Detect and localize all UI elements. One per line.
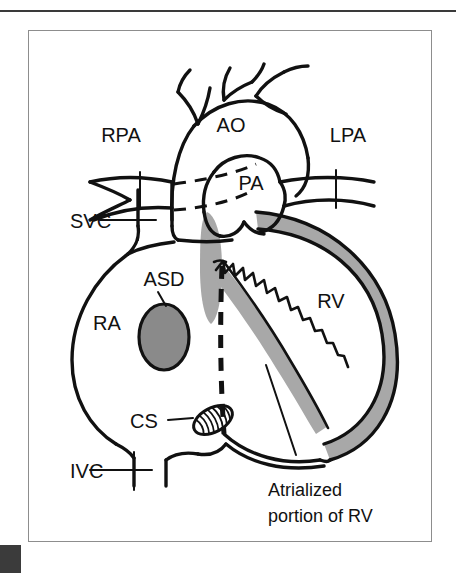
label-ra: RA [93,312,121,334]
label-rv: RV [317,290,345,312]
figure-root: RPA AO LPA PA SVC ASD RA CS IVC RV Atria… [0,0,456,574]
cs-leader-line [168,418,193,420]
true-tricuspid-annulus-dashed-line [221,266,224,434]
label-cs: CS [130,410,158,432]
label-pa: PA [238,172,264,194]
top-horizontal-rule [0,10,456,12]
label-lpa: LPA [330,124,367,146]
label-atrialized-line2: portion of RV [268,506,373,526]
label-ao: AO [217,114,246,136]
coronary-sinus-shape [189,400,237,441]
corner-marker-square [0,545,21,573]
label-svc: SVC [70,210,111,232]
label-atrialized-line1: Atrialized [268,480,342,500]
label-ivc: IVC [70,460,103,482]
label-asd: ASD [143,268,184,290]
heart-anatomy-diagram: RPA AO LPA PA SVC ASD RA CS IVC RV Atria… [28,30,432,542]
asd-defect-shape [139,304,189,370]
label-rpa: RPA [101,124,141,146]
